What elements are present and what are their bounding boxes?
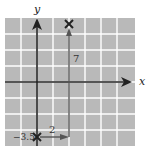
displacement-diagram: x y 2 7 −3.5 xyxy=(0,0,150,152)
vertical-component-label: 7 xyxy=(73,53,79,64)
start-value-label: −3.5 xyxy=(13,132,35,142)
x-axis-label: x xyxy=(139,75,146,88)
y-axis-label: y xyxy=(33,3,41,16)
horizontal-component-label: 2 xyxy=(49,124,55,135)
